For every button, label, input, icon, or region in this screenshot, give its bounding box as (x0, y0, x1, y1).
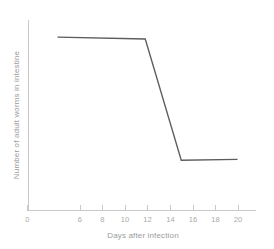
x-axis-tick-labels: 0 6 8 10 12 14 16 18 20 (25, 215, 242, 224)
x-tick-label-6: 6 (78, 215, 82, 224)
y-axis-title: Number of adult worms in intestine (12, 50, 21, 179)
x-axis-title: Days after infection (107, 231, 178, 240)
x-tick-label-20: 20 (234, 215, 243, 224)
data-series-line (58, 37, 238, 160)
x-tick-label-0: 0 (25, 215, 29, 224)
x-tick-label-10: 10 (121, 215, 130, 224)
x-tick-label-12: 12 (143, 215, 152, 224)
x-tick-label-14: 14 (166, 215, 175, 224)
x-tick-label-18: 18 (211, 215, 220, 224)
x-tick-label-8: 8 (100, 215, 104, 224)
chart-container: 0 6 8 10 12 14 16 18 20 Days after infec… (0, 0, 274, 249)
line-chart: 0 6 8 10 12 14 16 18 20 Days after infec… (0, 0, 274, 249)
x-tick-label-16: 16 (189, 215, 198, 224)
x-axis-ticks (28, 205, 239, 210)
